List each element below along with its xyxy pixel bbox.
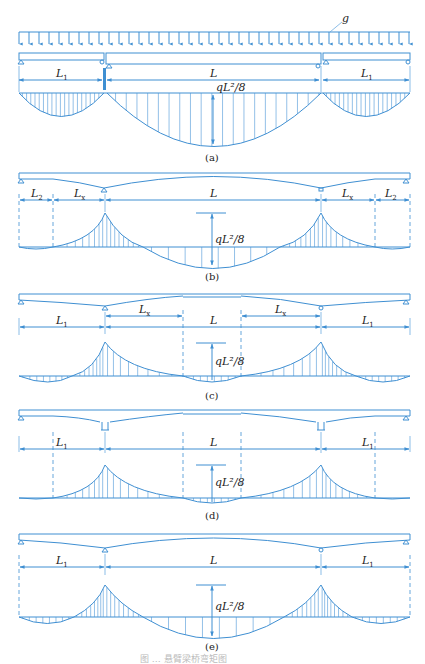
- svg-text:qL²/8: qL²/8: [215, 600, 244, 613]
- svg-text:qL²/8: qL²/8: [215, 476, 244, 489]
- svg-text:qL²/8: qL²/8: [215, 233, 244, 246]
- caption-c: (c): [205, 390, 219, 401]
- bending-moment-diagram-figure: g L1 L L1: [0, 0, 425, 664]
- svg-text:L1: L1: [55, 67, 68, 82]
- svg-text:L: L: [209, 314, 217, 327]
- svg-text:qL²/8: qL²/8: [216, 81, 245, 94]
- svg-text:L1: L1: [361, 314, 374, 329]
- caption-d: (d): [205, 510, 219, 521]
- moment-curve-a: qL²/8: [19, 81, 410, 147]
- dimensions-a: L1 L L1: [19, 66, 410, 92]
- moment-curve-e: qL²/8: [19, 585, 410, 639]
- figure-caption: 图 … 悬臂梁桥弯矩图: [140, 653, 227, 664]
- svg-text:L2: L2: [30, 187, 43, 202]
- panel-e: L1 L L1 qL²/8 (e): [18, 534, 410, 652]
- caption-e: (e): [205, 641, 219, 652]
- svg-text:L1: L1: [55, 314, 68, 329]
- svg-text:L1: L1: [361, 554, 374, 569]
- svg-text:L: L: [209, 436, 217, 449]
- svg-text:qL²/8: qL²/8: [215, 355, 244, 368]
- svg-text:L: L: [209, 67, 217, 80]
- svg-text:L1: L1: [360, 67, 373, 82]
- moment-curve-b: qL²/8: [19, 213, 410, 269]
- svg-text:L1: L1: [55, 436, 68, 451]
- caption-b: (b): [205, 271, 219, 282]
- svg-text:L1: L1: [361, 436, 374, 451]
- panel-c: Lx Lx L1 L L1 qL²/8 (c): [18, 294, 410, 401]
- moment-curve-c: qL²/8: [19, 342, 410, 382]
- svg-text:L: L: [209, 554, 217, 567]
- svg-text:Lx: Lx: [341, 187, 353, 202]
- moment-curve-d: qL²/8: [19, 465, 410, 503]
- svg-text:L1: L1: [55, 554, 68, 569]
- svg-text:Lx: Lx: [274, 303, 286, 318]
- caption-a: (a): [205, 152, 219, 163]
- panel-a: g L1 L L1: [18, 12, 410, 163]
- distributed-load: g: [19, 12, 410, 44]
- panel-d: L1 L L1 qL²/8 (d): [18, 410, 410, 521]
- svg-text:L: L: [209, 187, 217, 200]
- load-label: g: [342, 12, 349, 25]
- panel-b: L2 Lx L Lx L2 qL²/8 (b): [18, 173, 410, 282]
- svg-text:L2: L2: [384, 187, 397, 202]
- svg-text:Lx: Lx: [73, 187, 85, 202]
- svg-text:Lx: Lx: [138, 303, 150, 318]
